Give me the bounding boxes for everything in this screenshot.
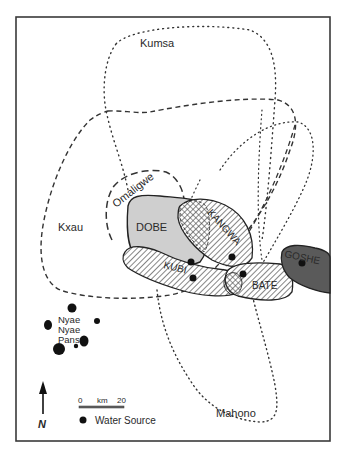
north-arrow [39, 381, 47, 414]
label-kumsa: Kumsa [140, 37, 175, 49]
water-source-dobe [188, 259, 195, 266]
north-label: N [38, 418, 47, 430]
scale-unit-label: km [97, 396, 108, 405]
water-source-kubi [190, 275, 197, 282]
nyae-pan [80, 336, 89, 347]
scale-end-label: 20 [117, 396, 126, 405]
label-mahono: Mahono [216, 407, 256, 419]
nyae-pan [68, 304, 77, 313]
label-kxau: Kxau [58, 221, 83, 233]
label-bate: BATE [252, 280, 278, 291]
territory-map: Kumsa Kxau Omaligwe DOBE KANGWA KUBI BAT… [0, 0, 348, 456]
legend-water-source-label: Water Source [95, 415, 156, 426]
nyae-pan [44, 320, 52, 330]
kubi-bate-overlap [224, 273, 242, 295]
mahono-boundary [157, 285, 277, 422]
label-dobe: DOBE [136, 221, 167, 233]
label-pans: Pans [58, 334, 80, 345]
legend-water-source-icon [80, 417, 87, 424]
scale-bar [79, 406, 124, 408]
water-source-kangwa [229, 254, 236, 261]
nyae-pan [94, 318, 100, 324]
scale-start-label: 0 [78, 396, 83, 405]
water-source-bate [240, 271, 247, 278]
